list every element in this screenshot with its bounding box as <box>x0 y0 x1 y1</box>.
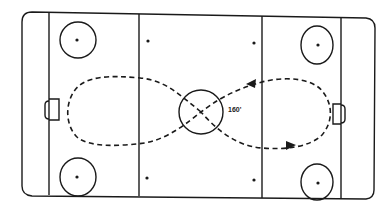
faceoff-circle-bottom-left <box>60 158 96 196</box>
rink-boards <box>22 12 375 199</box>
neutral-dot-bottom-left <box>145 176 148 179</box>
faceoff-circle-top-left <box>60 22 96 58</box>
faceoff-circle-top-right <box>301 26 333 64</box>
path-arrow-lower <box>286 141 296 150</box>
distance-label: 160' <box>228 106 242 113</box>
neutral-dot-top-left <box>146 39 149 42</box>
neutral-dot-top-right <box>252 41 255 44</box>
goal-right <box>333 104 345 124</box>
faceoff-circle-bottom-right <box>301 164 333 200</box>
hockey-rink-diagram: 160' <box>0 0 388 220</box>
skating-path-figure-eight <box>68 77 331 149</box>
neutral-dot-bottom-right <box>252 178 255 181</box>
goal-left <box>45 99 59 120</box>
